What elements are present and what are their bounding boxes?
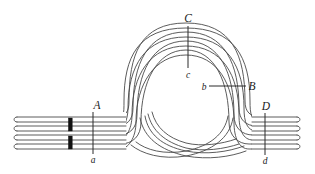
label-A: A xyxy=(92,99,101,111)
horizontal-overlay-group xyxy=(0,112,315,154)
strand-1-edge-bottom xyxy=(17,28,297,122)
strand-1 xyxy=(15,23,300,122)
label-d: d xyxy=(263,156,268,166)
knot-diagram-figure: C c B b A a D d xyxy=(0,0,315,174)
diagram-canvas: C c B b A a D d xyxy=(0,0,315,174)
marker-block-lower xyxy=(68,136,72,149)
marker-block-upper xyxy=(68,118,72,131)
label-B: B xyxy=(248,80,255,92)
strand-1-edge-top xyxy=(17,23,297,117)
label-D: D xyxy=(261,100,271,112)
left-clear-plate xyxy=(0,112,126,154)
label-b: b xyxy=(202,82,207,92)
right-clear-plate xyxy=(252,112,315,154)
label-C: C xyxy=(184,12,192,24)
label-c: c xyxy=(186,70,191,80)
label-a: a xyxy=(91,155,96,165)
